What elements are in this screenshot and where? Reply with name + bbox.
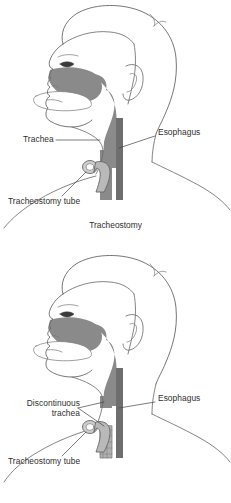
leader-line-tube bbox=[62, 172, 86, 196]
esophagus-shape bbox=[116, 118, 123, 200]
neck-back-line bbox=[152, 384, 156, 414]
figure-tracheostomy: Trachea Esophagus Tracheostomy tube Trac… bbox=[0, 0, 231, 503]
eye-shape bbox=[60, 312, 74, 317]
panel-caption-tracheostomy: Tracheostomy bbox=[0, 220, 231, 230]
ear-inner-line bbox=[127, 323, 137, 342]
label-discontinuous-trachea-line2: trachea bbox=[52, 408, 80, 418]
leader-line-tube bbox=[62, 432, 86, 456]
panel-tracheostomy: Trachea Esophagus Tracheostomy tube Trac… bbox=[0, 0, 231, 250]
leader-line-esophagus bbox=[119, 402, 155, 408]
panel-discontinuous-trachea: Discontinuous trachea Esophagus Tracheos… bbox=[0, 250, 231, 503]
tracheostomy-illustration bbox=[0, 0, 231, 250]
neck-back-line bbox=[152, 134, 156, 162]
label-esophagus: Esophagus bbox=[158, 127, 200, 137]
esophagus-shape bbox=[116, 368, 123, 458]
label-discontinuous-trachea-line1: Discontinuous bbox=[27, 398, 80, 408]
eyebrow-line bbox=[58, 305, 78, 307]
tracheostomy-tube-lumen bbox=[86, 164, 94, 171]
eye-shape bbox=[60, 62, 74, 67]
eyebrow-line bbox=[58, 55, 78, 57]
hairline bbox=[63, 32, 134, 44]
jaw-line bbox=[72, 127, 103, 152]
label-esophagus: Esophagus bbox=[158, 393, 200, 403]
ear-inner-line bbox=[127, 73, 137, 92]
hairline bbox=[63, 282, 134, 294]
label-trachea: Trachea bbox=[23, 134, 54, 144]
label-discontinuous-trachea: Discontinuous trachea bbox=[2, 398, 80, 418]
shoulder-right-line bbox=[152, 414, 230, 462]
trachea-upper-stump bbox=[100, 396, 112, 408]
label-tracheostomy-tube: Tracheostomy tube bbox=[8, 456, 80, 466]
hair-swirl bbox=[150, 14, 166, 26]
leader-line-esophagus bbox=[119, 136, 155, 148]
shoulder-right-line bbox=[152, 162, 230, 210]
tracheostomy-tube-lumen bbox=[86, 424, 94, 431]
hair-swirl bbox=[150, 264, 166, 276]
label-tracheostomy-tube: Tracheostomy tube bbox=[8, 196, 80, 206]
